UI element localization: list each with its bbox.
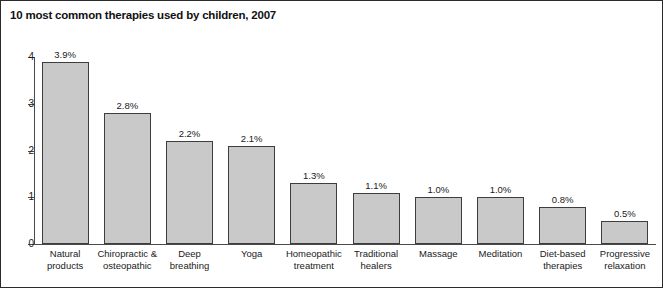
bar-series: 3.9%2.8%2.2%2.1%1.3%1.1%1.0%1.0%0.8%0.5% [34,57,656,244]
bar [42,62,89,244]
category-label-line: Homeopathic [283,248,345,260]
bar [353,193,400,244]
x-axis-line [34,244,656,245]
bar-value-label: 1.1% [345,180,407,191]
category-label-line: Diet-based [532,248,594,260]
bar [104,113,151,244]
category-label: Deepbreathing [158,248,220,271]
bar [601,221,648,244]
category-label: Diet-basedtherapies [532,248,594,271]
y-axis-tick: 3 [1,104,34,105]
y-axis-tick-label: 3 [12,98,34,109]
y-axis-tick-label: 1 [12,191,34,202]
bar-value-label: 2.2% [158,128,220,139]
category-label: Traditionalhealers [345,248,407,271]
bar [477,197,524,244]
category-label-line: Massage [407,248,469,260]
y-axis-tick: 2 [1,151,34,152]
category-label: Progressiverelaxation [594,248,656,271]
bar [539,207,586,244]
bar-value-label: 1.0% [469,184,531,195]
chart-figure: 10 most common therapies used by childre… [0,0,663,288]
category-label: Massage [407,248,469,260]
category-label: Naturalproducts [34,248,96,271]
category-label-line: Natural [34,248,96,260]
category-label-line: breathing [158,260,220,272]
category-label-line: healers [345,260,407,272]
category-label-line: Chiropractic & [96,248,158,260]
y-axis-tick-label: 4 [12,51,34,62]
y-axis-tick: 0 [1,244,34,245]
bar-value-label: 1.0% [407,184,469,195]
category-label: Chiropractic &osteopathic [96,248,158,271]
category-label-line: products [34,260,96,272]
category-label-line: therapies [532,260,594,272]
bar-value-label: 0.5% [594,208,656,219]
bar-value-label: 2.1% [221,133,283,144]
y-axis-tick: 1 [1,197,34,198]
category-label-line: Deep [158,248,220,260]
bar [415,197,462,244]
bar [166,141,213,244]
category-label-line: Traditional [345,248,407,260]
plot-area: 01234 3.9%2.8%2.2%2.1%1.3%1.1%1.0%1.0%0.… [1,1,664,289]
y-axis-tick: 4 [1,57,34,58]
category-label-line: Yoga [221,248,283,260]
bar-value-label: 1.3% [283,170,345,181]
y-axis-tick-label: 2 [12,145,34,156]
category-label-line: osteopathic [96,260,158,272]
category-label: Homeopathictreatment [283,248,345,271]
category-label: Meditation [469,248,531,260]
category-label-line: relaxation [594,260,656,272]
bar-value-label: 2.8% [96,100,158,111]
y-axis-tick-label: 0 [12,238,34,249]
category-label-line: Meditation [469,248,531,260]
bar-value-label: 0.8% [532,194,594,205]
bar [228,146,275,244]
category-label-line: treatment [283,260,345,272]
category-label: Yoga [221,248,283,260]
bar [290,183,337,244]
category-label-line: Progressive [594,248,656,260]
bar-value-label: 3.9% [34,49,96,60]
x-axis-category-labels: NaturalproductsChiropractic &osteopathic… [34,248,656,286]
